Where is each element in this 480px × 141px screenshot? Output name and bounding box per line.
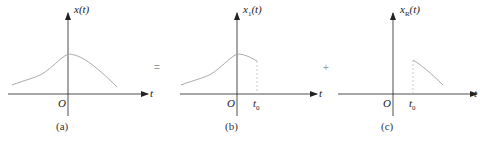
- y-axis-label-b: x1(t): [243, 3, 262, 18]
- diagram-canvas: [0, 0, 480, 141]
- y-axis-label-a: x(t): [74, 3, 89, 15]
- caption-a: (a): [56, 120, 68, 132]
- panel-b: [180, 13, 317, 116]
- caption-b: (b): [225, 120, 238, 132]
- signal-curve: [413, 60, 443, 85]
- ylabel-arg: (t): [79, 3, 89, 15]
- t0-label-b: t0: [253, 97, 260, 112]
- t0-label-c: t0: [409, 97, 416, 112]
- t0-sub: 0: [412, 104, 416, 112]
- x-axis-label-c: t: [474, 87, 477, 99]
- t0-sub: 0: [256, 104, 260, 112]
- origin-label-a: O: [58, 97, 66, 109]
- x-axis-label-b: t: [319, 87, 322, 99]
- x-axis-label-a: t: [150, 87, 153, 99]
- signal-curve: [12, 54, 117, 87]
- signal-curve: [181, 54, 257, 85]
- equals-operator: =: [154, 62, 160, 73]
- ylabel-arg: (t): [410, 3, 420, 15]
- ylabel-arg: (t): [251, 3, 261, 15]
- y-axis-label-c: xR(t): [400, 3, 420, 18]
- origin-label-b: O: [227, 97, 235, 109]
- plus-operator: +: [323, 62, 329, 73]
- panel-a: [8, 13, 148, 116]
- panel-c: [338, 13, 477, 116]
- origin-label-c: O: [383, 97, 391, 109]
- caption-c: (c): [381, 120, 393, 132]
